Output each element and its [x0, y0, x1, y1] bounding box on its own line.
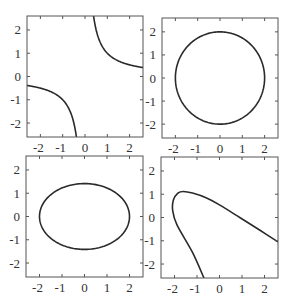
hyperbola-curve — [25, 12, 145, 138]
y-tick-label: 1 — [15, 46, 22, 61]
x-tick-label: 0 — [82, 140, 89, 155]
y-tick-label: 2 — [149, 163, 156, 178]
y-tick-label: -2 — [144, 257, 155, 272]
y-tick-label: 0 — [15, 69, 22, 84]
x-tick-label: -2 — [32, 280, 43, 295]
x-tick-label: 0 — [81, 280, 88, 295]
y-tick-label: -2 — [145, 117, 156, 132]
y-tick-label: -2 — [9, 256, 20, 271]
y-tick-label: -1 — [10, 92, 21, 107]
y-tick-label: -1 — [145, 94, 156, 109]
y-tick-label: 2 — [15, 22, 22, 37]
y-tick-label: -1 — [144, 233, 155, 248]
x-tick-label: 1 — [239, 281, 246, 296]
figure: -2-1012-2-1012 -2-1012-2-1012 -2-1012-2-… — [0, 0, 296, 305]
x-tick-label: 2 — [261, 141, 268, 156]
axes-frame — [161, 157, 278, 278]
y-tick-label: 0 — [150, 71, 157, 86]
x-tick-label: 2 — [261, 281, 268, 296]
y-tick-label: 1 — [14, 186, 21, 201]
axes-frame — [26, 156, 143, 277]
y-tick-label: 0 — [14, 209, 21, 224]
subplot-top-right-circle: -2-1012-2-1012 — [145, 18, 278, 156]
x-tick-label: -1 — [55, 280, 66, 295]
x-tick-label: -2 — [168, 141, 179, 156]
y-tick-label: -1 — [9, 232, 20, 247]
subplot-top-left-hyperbola: -2-1012-2-1012 — [10, 12, 145, 155]
x-tick-label: -1 — [190, 281, 201, 296]
x-tick-label: 1 — [239, 141, 246, 156]
x-tick-label: -1 — [55, 140, 66, 155]
y-tick-label: 2 — [14, 162, 21, 177]
x-tick-label: 2 — [126, 280, 133, 295]
x-tick-label: -2 — [33, 140, 44, 155]
axes-frame — [27, 16, 143, 137]
subplot-bottom-right-parabola: -2-1012-2-1012 — [144, 157, 278, 296]
subplot-bottom-left-ellipse: -2-1012-2-1012 — [9, 156, 143, 295]
ellipse-curve — [40, 184, 130, 250]
y-tick-label: 1 — [150, 47, 157, 62]
x-tick-label: 0 — [216, 281, 223, 296]
axes-frame — [162, 18, 278, 138]
x-tick-label: 0 — [217, 141, 224, 156]
y-tick-label: 1 — [149, 187, 156, 202]
x-tick-label: 1 — [104, 140, 111, 155]
parabola-curve — [172, 191, 278, 278]
x-tick-label: 2 — [126, 140, 133, 155]
x-tick-label: -1 — [190, 141, 201, 156]
x-tick-label: -2 — [167, 281, 178, 296]
y-tick-label: -2 — [10, 116, 21, 131]
y-tick-label: 0 — [149, 210, 156, 225]
y-tick-label: 2 — [150, 24, 157, 39]
x-tick-label: 1 — [104, 280, 111, 295]
circle-curve — [175, 32, 264, 124]
